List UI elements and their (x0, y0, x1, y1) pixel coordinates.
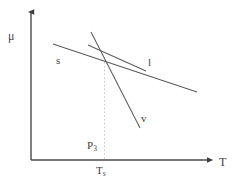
x-tick-label-base: T (96, 164, 103, 176)
vapor-curve-label: v (141, 113, 147, 124)
phase-diagram-figure: μ T s l v P3 Ts (0, 0, 244, 190)
x-axis-label: T (219, 156, 226, 168)
liquid-phase-line (88, 45, 146, 71)
x-tick-label-subscript: s (103, 169, 106, 178)
x-tick-label-ts: Ts (96, 165, 106, 176)
y-axis-label: μ (8, 30, 14, 42)
solid-curve-label: s (56, 55, 60, 66)
solid-phase-line (53, 44, 197, 92)
liquid-curve-label: l (148, 57, 151, 68)
triple-point-label: P3 (87, 140, 97, 151)
triple-point-label-subscript: 3 (93, 144, 97, 153)
plot-canvas (0, 0, 244, 190)
vapor-phase-line (91, 32, 140, 128)
